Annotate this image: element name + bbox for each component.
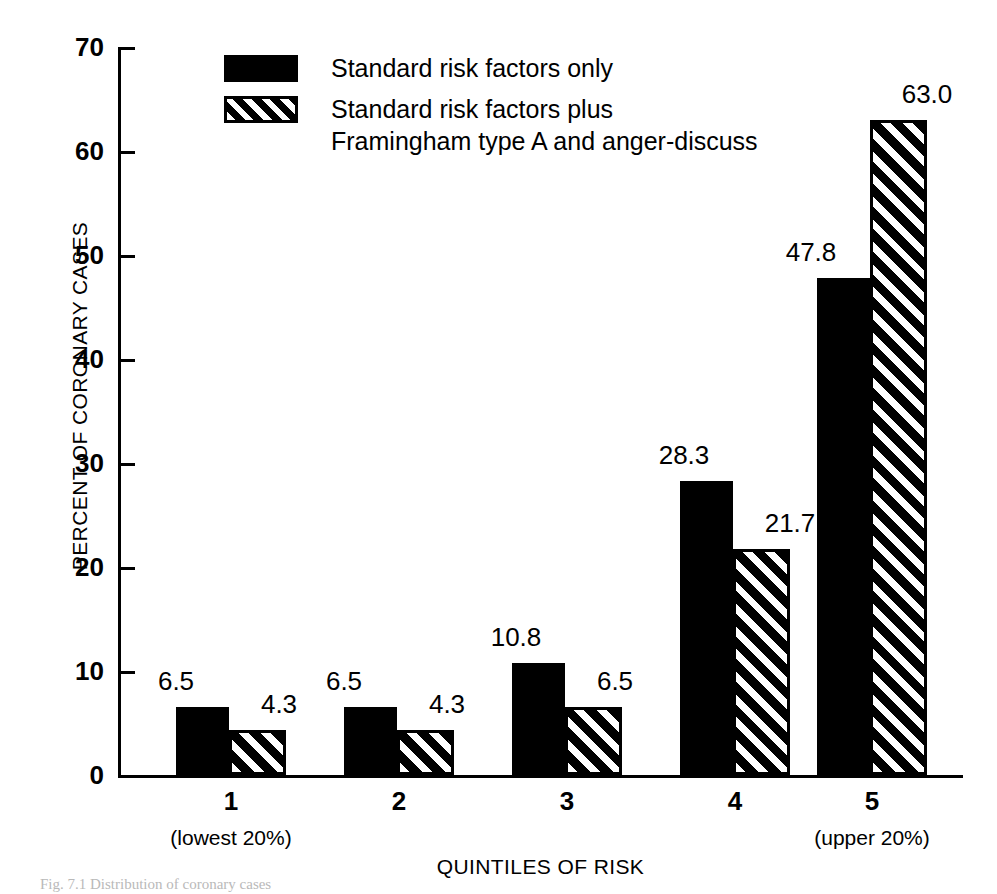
bar-value-q2-series1: 6.5	[298, 668, 390, 694]
bar-q2-series1	[344, 707, 397, 775]
bar-value-q3-series2: 6.5	[569, 668, 661, 694]
bar-q4-series1	[680, 481, 733, 775]
bar-value-q5-series2: 63.0	[874, 81, 980, 107]
x-axis-label-quintile-4: 4	[690, 786, 780, 817]
bar-q5-series1	[817, 278, 870, 775]
x-axis-label-quintile-5: 5	[827, 786, 917, 817]
bar-value-q4-series1: 28.3	[631, 442, 737, 468]
bar-q4-series2	[733, 549, 790, 775]
bar-value-q5-series1: 47.8	[758, 239, 864, 265]
bar-q5-series2	[870, 120, 927, 775]
x-axis-sublabel-quintile-1: (lowest 20%)	[131, 826, 331, 850]
bar-q1-series2	[229, 730, 286, 775]
x-axis-line	[118, 775, 963, 778]
bar-q2-series2	[397, 730, 454, 775]
bar-value-q2-series2: 4.3	[401, 691, 493, 717]
x-axis-label-quintile-2: 2	[354, 786, 444, 817]
figure-bar-chart: PERCENT OF CORONARY CASES 70 60 50 40 30	[0, 0, 997, 894]
x-axis-label-quintile-3: 3	[522, 786, 612, 817]
bar-q3-series1	[512, 663, 565, 775]
bar-q1-series1	[176, 707, 229, 775]
bar-value-q1-series2: 4.3	[233, 691, 325, 717]
plot-area: 6.5 4.3 1 (lowest 20%) 6.5 4.3 2 10.8 6.…	[0, 0, 997, 894]
figure-caption: Fig. 7.1 Distribution of coronary cases	[40, 876, 740, 893]
x-axis-sublabel-quintile-5: (upper 20%)	[772, 826, 972, 850]
bar-value-q3-series1: 10.8	[463, 624, 569, 650]
x-axis-label-quintile-1: 1	[186, 786, 276, 817]
bar-value-q1-series1: 6.5	[130, 668, 222, 694]
bar-q3-series2	[565, 707, 622, 775]
